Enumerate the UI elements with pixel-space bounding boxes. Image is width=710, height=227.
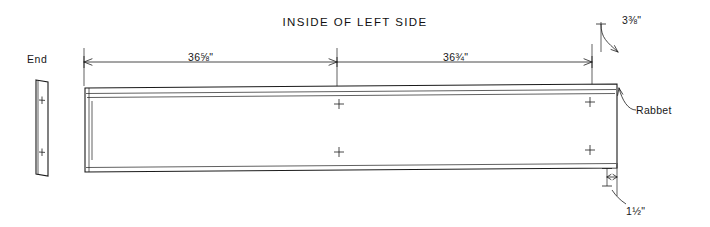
rabbet-leader: [618, 88, 636, 110]
rabbet-label: Rabbet: [636, 104, 672, 116]
end-view-profile: [36, 80, 48, 176]
line-drawing: [0, 0, 710, 227]
drawing-canvas: INSIDE OF LEFT SIDE: [0, 0, 710, 227]
top-right-offset-leader: [596, 22, 618, 52]
dimension-bottom-right-offset: 1½": [626, 205, 645, 217]
dimension-top-right-offset: 3⅜": [622, 14, 641, 26]
dimension-right-span: 36¾": [443, 51, 468, 63]
end-view-label: End: [27, 53, 47, 65]
dimension-left-span: 36⅝": [188, 51, 213, 63]
bottom-right-offset-leader: [602, 163, 626, 204]
board-outline: [85, 84, 617, 172]
